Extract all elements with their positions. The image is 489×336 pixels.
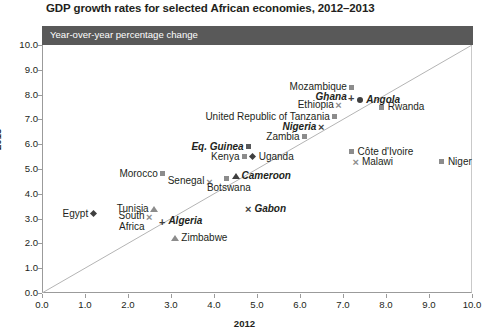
x-tick-mark <box>171 294 172 298</box>
y-tick-mark <box>38 119 42 120</box>
marker-south-africa: × <box>146 212 152 223</box>
point-label-zambia: Zambia <box>266 131 299 142</box>
x-tick-mark <box>214 294 215 298</box>
y-tick-label: 6.0 <box>0 138 38 149</box>
point-label-morocco: Morocco <box>119 168 157 179</box>
point-label-cameroon: Cameroon <box>242 170 291 181</box>
point-label-niger: Niger <box>448 156 472 167</box>
marker-rwanda <box>379 105 384 110</box>
x-tick-mark <box>429 294 430 298</box>
marker-zambia <box>302 134 307 139</box>
point-label-senegal: Senegal <box>168 175 205 186</box>
point-label-malawi: Malawi <box>362 156 393 167</box>
y-tick-mark <box>38 70 42 71</box>
chart-title: GDP growth rates for selected African ec… <box>46 2 374 14</box>
marker-gabon: × <box>245 204 251 215</box>
x-tick-label: 5.0 <box>237 299 277 310</box>
x-tick-label: 1.0 <box>65 299 105 310</box>
y-tick-label: 9.0 <box>0 64 38 75</box>
x-tick-label: 6.0 <box>280 299 320 310</box>
x-tick-label: 3.0 <box>151 299 191 310</box>
point-label-rwanda: Rwanda <box>388 101 425 112</box>
x-tick-mark <box>128 294 129 298</box>
x-tick-mark <box>42 294 43 298</box>
marker-eq-guinea <box>246 144 251 149</box>
marker-mozambique <box>349 85 354 90</box>
point-label-botswana: Botswana <box>207 182 251 193</box>
x-tick-mark <box>257 294 258 298</box>
point-label-zimbabwe: Zimbabwe <box>181 232 227 243</box>
marker-ghana: + <box>348 93 354 104</box>
y-tick-label: 4.0 <box>0 188 38 199</box>
y-tick-mark <box>38 243 42 244</box>
x-tick-label: 9.0 <box>409 299 449 310</box>
x-tick-mark <box>343 294 344 298</box>
marker-nigeria: × <box>318 122 324 133</box>
y-tick-label: 3.0 <box>0 213 38 224</box>
marker-angola <box>357 97 363 103</box>
y-tick-mark <box>38 194 42 195</box>
x-tick-label: 7.0 <box>323 299 363 310</box>
y-tick-mark <box>38 268 42 269</box>
point-label-kenya: Kenya <box>211 151 239 162</box>
x-tick-mark <box>472 294 473 298</box>
point-label-ethiopia: Ethiopia <box>298 99 334 110</box>
x-tick-mark <box>386 294 387 298</box>
point-label-egypt: Egypt <box>63 208 89 219</box>
marker-cameroon <box>232 173 240 179</box>
marker-c-te-d-ivoire <box>349 149 354 154</box>
x-tick-label: 4.0 <box>194 299 234 310</box>
marker-malawi: × <box>352 157 358 168</box>
x-tick-label: 8.0 <box>366 299 406 310</box>
y-tick-label: 1.0 <box>0 262 38 273</box>
y-tick-mark <box>38 95 42 96</box>
x-tick-mark <box>85 294 86 298</box>
y-tick-label: 8.0 <box>0 89 38 100</box>
point-label-algeria: Algeria <box>168 215 202 226</box>
y-tick-label: 10.0 <box>0 39 38 50</box>
marker-niger <box>439 159 444 164</box>
x-axis-label: 2012 <box>0 318 489 329</box>
x-tick-label: 2.0 <box>108 299 148 310</box>
y-tick-label: 0.0 <box>0 287 38 298</box>
marker-ethiopia: × <box>335 100 341 111</box>
parity-reference-line <box>42 45 472 293</box>
y-tick-label: 7.0 <box>0 113 38 124</box>
subtitle-text: Year-over-year percentage change <box>50 29 198 40</box>
point-label-south-africa: SouthAfrica <box>119 210 145 232</box>
marker-morocco <box>160 171 165 176</box>
x-tick-label: 10.0 <box>452 299 489 310</box>
chart-root: GDP growth rates for selected African ec… <box>0 0 489 336</box>
point-label-uganda: Uganda <box>259 151 294 162</box>
marker-botswana <box>224 176 229 181</box>
y-tick-mark <box>38 219 42 220</box>
marker-zimbabwe <box>171 235 179 241</box>
y-tick-label: 2.0 <box>0 237 38 248</box>
marker-united-republic-of-tanzania <box>332 114 337 119</box>
y-tick-label: 5.0 <box>0 163 38 174</box>
y-tick-mark <box>38 144 42 145</box>
x-tick-label: 0.0 <box>22 299 62 310</box>
x-tick-mark <box>300 294 301 298</box>
marker-algeria: + <box>159 217 165 228</box>
point-label-gabon: Gabon <box>254 203 286 214</box>
marker-kenya <box>242 154 247 159</box>
y-tick-mark <box>38 45 42 46</box>
y-tick-mark <box>38 169 42 170</box>
